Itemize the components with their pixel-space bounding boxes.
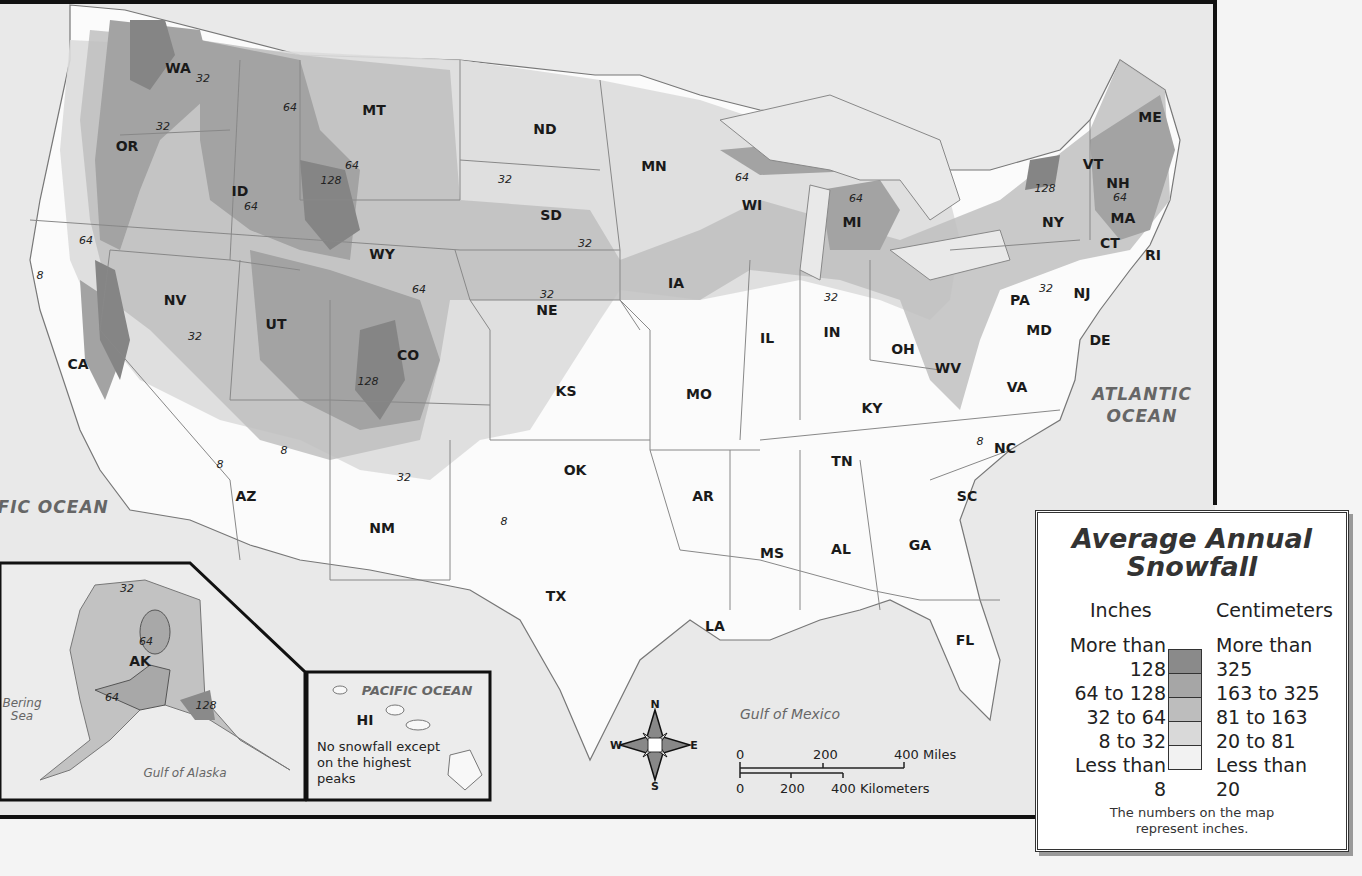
- legend-inches-row: 8: [1070, 777, 1166, 801]
- legend-swatch: [1169, 650, 1201, 674]
- pacific-ocean-inset-label: PACIFIC OCEAN: [362, 683, 473, 698]
- scale-km-0: 0: [736, 781, 744, 796]
- state-label-ok: OK: [564, 462, 587, 478]
- legend-inches-row: 64 to 128: [1070, 681, 1166, 705]
- legend-swatch: [1169, 722, 1201, 746]
- state-label-ky: KY: [862, 400, 883, 416]
- isoline-label: 64: [139, 635, 153, 648]
- state-label-ut: UT: [266, 316, 287, 332]
- state-label-ma: MA: [1111, 210, 1136, 226]
- legend-swatch: [1169, 698, 1201, 722]
- legend-swatches: [1168, 649, 1202, 770]
- scale-miles-0: 0: [736, 747, 744, 762]
- legend-inches-row: More than: [1070, 633, 1166, 657]
- isoline-label: 32: [397, 471, 411, 484]
- state-label-ga: GA: [909, 537, 931, 553]
- compass-s: S: [651, 780, 659, 793]
- state-label-mo: MO: [686, 386, 712, 402]
- isoline-label: 32: [120, 582, 134, 595]
- legend-cm-row: 163 to 325: [1216, 681, 1320, 705]
- state-label-in: IN: [824, 324, 841, 340]
- state-label-oh: OH: [891, 341, 915, 357]
- scale-miles-400: 400 Miles: [894, 747, 956, 762]
- isoline-label: 32: [188, 330, 202, 343]
- isoline-label: 32: [498, 173, 512, 186]
- isoline-label: 8: [217, 458, 224, 471]
- legend-inches-row: 128: [1070, 657, 1166, 681]
- isoline-label: 128: [321, 174, 342, 187]
- state-label-nc: NC: [994, 440, 1016, 456]
- compass-w: W: [610, 739, 622, 752]
- legend-swatch: [1169, 674, 1201, 698]
- state-label-pa: PA: [1010, 292, 1030, 308]
- legend-swatch: [1169, 746, 1201, 769]
- state-label-nj: NJ: [1074, 285, 1091, 301]
- legend-cm-row: More than: [1216, 633, 1320, 657]
- legend-cm-row: 20 to 81: [1216, 729, 1320, 753]
- isoline-label: 8: [977, 435, 984, 448]
- state-label-ms: MS: [760, 545, 784, 561]
- legend-inches-row: Less than: [1070, 753, 1166, 777]
- isoline-label: 128: [358, 375, 379, 388]
- state-label-nv: NV: [164, 292, 187, 308]
- state-label-il: IL: [760, 330, 774, 346]
- scale-miles-200: 200: [813, 747, 838, 762]
- isoline-label: 32: [578, 237, 592, 250]
- state-label-az: AZ: [236, 488, 257, 504]
- state-label-me: ME: [1138, 109, 1162, 125]
- state-label-mn: MN: [641, 158, 667, 174]
- state-label-wv: WV: [935, 360, 961, 376]
- isoline-label: 8: [501, 515, 508, 528]
- state-label-vt: VT: [1083, 156, 1103, 172]
- state-label-ak: AK: [129, 653, 151, 669]
- atlantic-ocean-label: ATLANTIC OCEAN: [1092, 383, 1192, 427]
- state-label-or: OR: [116, 138, 139, 154]
- isoline-label: 64: [79, 234, 93, 247]
- state-label-ri: RI: [1145, 247, 1161, 263]
- state-label-id: ID: [232, 183, 249, 199]
- state-label-co: CO: [397, 347, 419, 363]
- isoline-label: 128: [1035, 182, 1056, 195]
- isoline-label: 64: [849, 192, 863, 205]
- centimeters-header: Centimeters: [1216, 599, 1333, 621]
- state-label-ar: AR: [692, 488, 714, 504]
- isoline-label: 128: [196, 699, 217, 712]
- compass-e: E: [690, 739, 698, 752]
- isoline-label: 64: [1113, 191, 1127, 204]
- compass-n: N: [650, 698, 659, 711]
- legend-cm-row: 20: [1216, 777, 1320, 801]
- scale-km-400: 400 Kilometers: [831, 781, 930, 796]
- isoline-label: 32: [540, 288, 554, 301]
- state-label-ny: NY: [1042, 214, 1064, 230]
- isoline-label: 64: [283, 101, 297, 114]
- state-label-la: LA: [705, 618, 725, 634]
- gulf-of-mexico-label: Gulf of Mexico: [740, 706, 840, 722]
- state-label-ks: KS: [556, 383, 577, 399]
- legend-inches-row: 8 to 32: [1070, 729, 1166, 753]
- legend-inches-row: 32 to 64: [1070, 705, 1166, 729]
- state-label-ca: CA: [67, 356, 88, 372]
- state-label-fl: FL: [956, 632, 974, 648]
- state-label-sc: SC: [957, 488, 977, 504]
- gulf-of-alaska-label: Gulf of Alaska: [143, 766, 226, 780]
- legend-cm-row: Less than: [1216, 753, 1320, 777]
- state-label-hi: HI: [357, 712, 374, 728]
- state-label-md: MD: [1026, 322, 1052, 338]
- legend-cm-row: 325: [1216, 657, 1320, 681]
- legend-inches-rows: More than12864 to 12832 to 648 to 32Less…: [1070, 633, 1166, 801]
- state-label-mt: MT: [362, 102, 385, 118]
- pacific-ocean-label: PACIFIC OCEAN: [0, 496, 109, 518]
- state-label-ne: NE: [536, 302, 557, 318]
- isoline-label: 64: [412, 283, 426, 296]
- scale-km-200: 200: [780, 781, 805, 796]
- state-label-va: VA: [1007, 379, 1028, 395]
- state-label-al: AL: [831, 541, 851, 557]
- state-label-tx: TX: [546, 588, 566, 604]
- state-label-tn: TN: [831, 453, 852, 469]
- state-label-ia: IA: [668, 275, 684, 291]
- isoline-label: 8: [281, 444, 288, 457]
- legend: Average Annual Snowfall Inches Centimete…: [1035, 510, 1349, 852]
- legend-cm-rows: More than325163 to 32581 to 16320 to 81L…: [1216, 633, 1320, 801]
- isoline-label: 64: [345, 159, 359, 172]
- state-label-wi: WI: [742, 197, 763, 213]
